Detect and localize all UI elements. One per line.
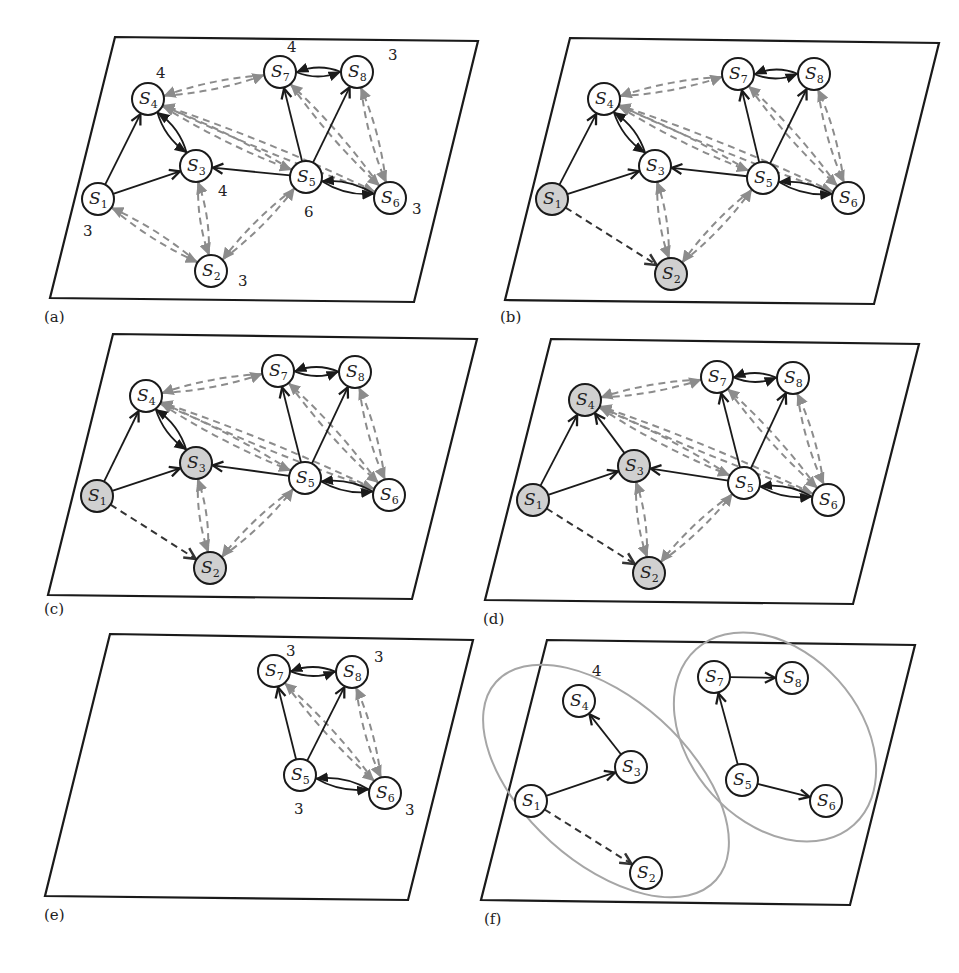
count-label: 3 — [405, 801, 415, 819]
gray-edge-S5-S2 — [223, 188, 295, 259]
gray-edge-S2-S5 — [682, 190, 751, 262]
solid-edge-S1-S3 — [113, 171, 180, 193]
node-s6: S6 — [373, 479, 405, 511]
solid-edge-S1-S4 — [540, 415, 577, 486]
node-s1: S1 — [82, 183, 114, 215]
gray-edge-S5-S2 — [222, 489, 293, 556]
solid-edge-S5-S7 — [284, 89, 302, 162]
gray-edge-S7-S4 — [621, 77, 723, 96]
node-s2: S2 — [633, 557, 665, 589]
node-s3: S3 — [180, 447, 212, 479]
gray-edge-S4-S7 — [162, 374, 262, 393]
solid-edge-S5-S3 — [213, 465, 289, 476]
figure-canvas: S1S2S3S4S5S6S7S844346333S1S2S3S4S5S6S7S8… — [0, 0, 959, 973]
gray-edge-S8-S6 — [797, 393, 823, 483]
solid-loop-S8-S7 — [291, 667, 336, 672]
solid-edge-S1-S4 — [105, 114, 140, 184]
count-label: 4 — [218, 182, 228, 200]
node-s4: S4 — [563, 685, 595, 717]
node-s5: S5 — [289, 462, 321, 494]
panel-f: S1S2S3S4S5S6S7S84 — [441, 592, 917, 941]
node-s5: S5 — [728, 467, 760, 499]
panel-e: S5S6S7S83333 — [45, 634, 473, 900]
gray-edge-S6-S8 — [357, 688, 381, 777]
node-s6: S6 — [832, 182, 864, 214]
node-s1: S1 — [81, 480, 113, 512]
node-s7: S7 — [722, 58, 754, 90]
node-s6: S6 — [810, 785, 842, 817]
panel-label-b: (b) — [500, 308, 521, 326]
node-s4: S4 — [569, 384, 601, 416]
gray-edge-S4-S7 — [164, 75, 264, 95]
count-label: 3 — [238, 272, 248, 290]
gray-edge-S1-S2 — [112, 208, 197, 262]
solid-loop-S7-S8 — [754, 74, 797, 79]
panel-c: S1S2S3S4S5S6S7S8 — [48, 334, 477, 599]
panel-label-d: (d) — [483, 610, 504, 628]
count-label: 6 — [304, 203, 314, 221]
count-label: 3 — [83, 222, 93, 240]
node-s5: S5 — [747, 162, 779, 194]
node-s7: S7 — [698, 661, 730, 693]
node-s7: S7 — [264, 56, 296, 88]
solid-loop-S7-S8 — [294, 371, 338, 376]
solid-loop-S8-S7 — [295, 367, 339, 372]
gray-edge-S7-S4 — [165, 75, 265, 95]
solid-loop-S8-S7 — [734, 373, 777, 378]
gray-edge-S2-S5 — [222, 189, 294, 260]
node-s4: S4 — [130, 380, 162, 412]
node-s3: S3 — [180, 150, 212, 182]
count-label: 3 — [294, 800, 304, 818]
gray-edge-S6-S8 — [819, 90, 844, 182]
node-s1: S1 — [515, 785, 547, 817]
solid-edge-S5-S3 — [672, 168, 747, 176]
panel-label-a: (a) — [44, 308, 65, 326]
node-s1: S1 — [536, 183, 568, 215]
node-s4: S4 — [588, 83, 620, 115]
panel-label-f: (f) — [484, 910, 501, 928]
panel-label-e: (e) — [44, 906, 65, 924]
gray-edge-S4-S7 — [620, 77, 722, 96]
count-label: 4 — [592, 662, 602, 680]
node-s4: S4 — [132, 83, 164, 115]
node-s6: S6 — [374, 182, 406, 214]
solid-edge-S1-S3 — [548, 471, 618, 494]
solid-edge-S1-S3 — [567, 171, 639, 194]
solid-loop-S4-S3 — [614, 112, 645, 153]
gray-edge-S5-S2 — [683, 190, 752, 262]
node-s8: S8 — [341, 56, 373, 88]
solid-edge-S5-S8 — [770, 89, 806, 163]
node-s5: S5 — [290, 161, 322, 193]
gray-edge-S8-S6 — [818, 89, 843, 181]
solid-edge-S5-S6 — [758, 784, 810, 797]
solid-loop-S8-S7 — [755, 70, 798, 75]
solid-edge-S7-S8 — [730, 677, 775, 678]
panel-label-c: (c) — [44, 600, 64, 618]
solid-edge-S5-S8 — [751, 393, 786, 468]
count-label: 4 — [287, 38, 297, 56]
panel-a: S1S2S3S4S5S6S7S844346333 — [50, 37, 478, 302]
gray-edge-S2-S1 — [112, 208, 197, 262]
node-s8: S8 — [776, 662, 808, 694]
node-s2: S2 — [195, 255, 227, 287]
gray-edge-S8-S6 — [356, 687, 380, 776]
count-label: 3 — [286, 642, 296, 660]
count-label: 4 — [156, 64, 166, 82]
solid-loop-S7-S8 — [733, 377, 776, 382]
count-label: 3 — [374, 648, 384, 666]
solid-loop-S8-S7 — [297, 68, 341, 73]
solid-edge-S5-S8 — [307, 687, 344, 761]
count-label: 3 — [412, 200, 422, 218]
solid-loop-S3-S4 — [158, 113, 187, 153]
node-s7: S7 — [262, 355, 294, 387]
node-s3: S3 — [639, 150, 671, 182]
solid-edge-S5-S3 — [213, 168, 290, 176]
node-s5: S5 — [726, 764, 758, 796]
count-label: 3 — [388, 46, 398, 64]
dark-dash-edge-S1-S2 — [566, 208, 657, 265]
solid-loop-S4-S3 — [156, 409, 186, 450]
solid-edge-S5-S7 — [278, 687, 296, 759]
solid-loop-S7-S8 — [290, 671, 335, 676]
gray-edge-S8-S6 — [361, 88, 386, 182]
node-s6: S6 — [369, 777, 401, 809]
